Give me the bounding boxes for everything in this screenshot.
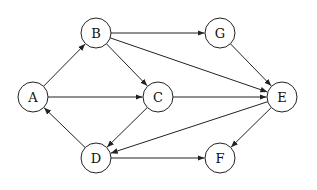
directed-graph: ABCGEDF [0,0,317,190]
graph-canvas: ABCGEDF [0,0,317,190]
node-label: E [277,90,287,105]
node-a: A [18,82,48,112]
node-label: A [27,90,38,105]
edge-c-to-d [107,108,147,148]
arrow-icon [231,108,271,148]
arrow-icon [44,108,85,148]
edge-b-to-c [106,44,147,86]
node-c: C [143,82,173,112]
arrow-icon [107,108,147,148]
edge-b-to-e [110,38,267,92]
arrow-icon [106,44,147,86]
arrow-icon [230,44,271,86]
node-label: C [153,90,163,105]
node-label: G [215,26,225,41]
nodes-layer: ABCGEDF [18,18,297,173]
arrow-icon [111,102,268,153]
edge-g-to-e [230,44,271,86]
node-f: F [205,143,235,173]
edge-e-to-d [111,102,268,153]
node-label: D [91,151,101,166]
arrow-icon [44,44,86,86]
edge-a-to-b [44,44,86,86]
arrow-icon [110,38,267,92]
node-g: G [205,18,235,48]
node-d: D [81,143,111,173]
edge-e-to-f [231,108,271,148]
node-label: F [215,151,224,166]
node-b: B [81,18,111,48]
node-e: E [267,82,297,112]
node-label: B [91,26,101,41]
edge-d-to-a [44,108,85,148]
